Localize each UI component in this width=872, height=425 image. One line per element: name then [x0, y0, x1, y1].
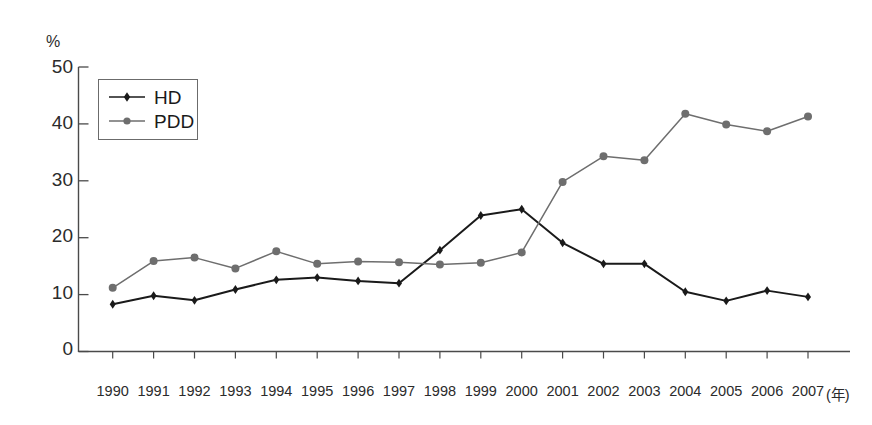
data-point-hd-2001 [560, 238, 566, 247]
data-point-pdd-2002 [600, 152, 608, 160]
legend-symbol-pdd-icon [107, 114, 147, 128]
series-line-pdd [113, 114, 808, 288]
data-point-pdd-2001 [559, 178, 567, 186]
x-tick-label-2003: 2003 [622, 383, 666, 399]
x-tick-label-1990: 1990 [91, 383, 135, 399]
data-point-pdd-1990 [109, 284, 117, 292]
data-point-pdd-2004 [681, 110, 689, 118]
x-tick-label-1995: 1995 [295, 383, 339, 399]
data-point-hd-1995 [314, 273, 320, 282]
data-point-hd-1991 [151, 291, 157, 300]
data-point-hd-2005 [723, 296, 729, 305]
data-point-pdd-1998 [436, 260, 444, 268]
data-point-hd-1990 [110, 300, 116, 309]
plot-area [0, 0, 872, 425]
data-point-hd-2004 [682, 287, 688, 296]
x-tick-label-1998: 1998 [418, 383, 462, 399]
x-tick-label-1991: 1991 [132, 383, 176, 399]
x-tick-label-1997: 1997 [377, 383, 421, 399]
series-line-hd [113, 209, 808, 304]
data-point-pdd-2007 [804, 113, 812, 121]
data-point-pdd-1996 [354, 258, 362, 266]
data-point-hd-1997 [396, 279, 402, 288]
y-tick-label-10: 10 [33, 282, 73, 304]
series-layer [109, 110, 812, 309]
series-pdd [109, 110, 812, 292]
x-tick-label-1993: 1993 [213, 383, 257, 399]
data-point-hd-2002 [601, 259, 607, 268]
y-tick-label-40: 40 [33, 112, 73, 134]
data-point-pdd-1995 [313, 260, 321, 268]
data-point-pdd-1993 [231, 264, 239, 272]
x-tick-label-2000: 2000 [500, 383, 544, 399]
x-tick-label-2006: 2006 [745, 383, 789, 399]
data-point-pdd-1994 [272, 247, 280, 255]
x-tick-marks [113, 352, 808, 359]
data-point-hd-2000 [519, 205, 525, 214]
x-tick-label-1999: 1999 [459, 383, 503, 399]
data-point-pdd-1997 [395, 258, 403, 266]
data-point-pdd-2006 [763, 127, 771, 135]
data-point-hd-1993 [232, 285, 238, 294]
x-tick-label-2004: 2004 [663, 383, 707, 399]
legend-label-pdd: PDD [154, 112, 194, 131]
data-point-pdd-1991 [150, 257, 158, 265]
y-tick-label-20: 20 [33, 225, 73, 247]
data-point-pdd-1992 [191, 254, 199, 262]
legend-item-hd: HD [99, 85, 197, 109]
data-point-pdd-1999 [477, 259, 485, 267]
x-tick-label-1992: 1992 [173, 383, 217, 399]
data-point-pdd-2003 [640, 156, 648, 164]
x-tick-label-1994: 1994 [254, 383, 298, 399]
data-point-hd-1992 [192, 296, 198, 305]
data-point-pdd-2000 [518, 248, 526, 256]
data-point-hd-1994 [273, 275, 279, 284]
legend-symbol-hd-icon [107, 90, 147, 104]
legend-label-hd: HD [154, 88, 181, 107]
y-tick-marks [79, 67, 89, 352]
legend: HD PDD [98, 79, 198, 140]
data-point-hd-2003 [641, 259, 647, 268]
y-tick-label-50: 50 [33, 56, 73, 78]
data-point-hd-2007 [805, 292, 811, 301]
series-hd [110, 205, 811, 309]
y-tick-label-0: 0 [33, 338, 73, 360]
y-tick-label-30: 30 [33, 169, 73, 191]
x-tick-label-2005: 2005 [704, 383, 748, 399]
data-point-hd-1996 [355, 277, 361, 286]
line-chart: % 50 40 30 20 10 0 199019911992199319941… [0, 0, 872, 425]
data-point-hd-2006 [764, 286, 770, 295]
x-tick-label-1996: 1996 [336, 383, 380, 399]
data-point-pdd-2005 [722, 120, 730, 128]
legend-item-pdd: PDD [99, 109, 197, 133]
y-axis-unit-label: % [46, 33, 60, 51]
x-tick-label-2002: 2002 [582, 383, 626, 399]
x-tick-label-2001: 2001 [541, 383, 585, 399]
x-tick-label-2007: 2007 [786, 383, 830, 399]
x-axis-unit-label: (年) [826, 383, 850, 404]
